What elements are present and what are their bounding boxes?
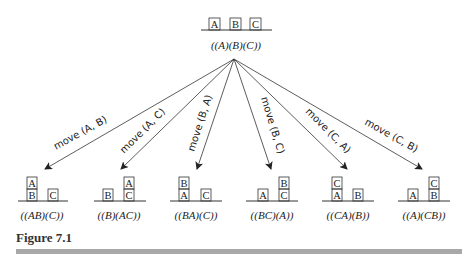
state-space-diagram: A B C ((A)(B)(C)) move (A, B) move (A, C… <box>0 0 472 263</box>
edge-move-c-b <box>234 59 422 169</box>
svg-text:A: A <box>28 178 36 189</box>
child-state-a-cb: A B C ((A)(CB)) <box>398 177 450 222</box>
child-state-ba-c: A B C ((BA)(C)) <box>170 177 222 222</box>
edge-move-a-c <box>121 59 234 169</box>
svg-text:C: C <box>125 190 132 201</box>
svg-text:B: B <box>28 190 35 201</box>
edge-label-move-a-b: move (A, B) <box>52 113 109 151</box>
block-c: C <box>250 18 261 30</box>
svg-text:A: A <box>259 190 267 201</box>
root-state: A B C ((A)(B)(C)) <box>201 18 272 52</box>
figure-caption: Figure 7.1 <box>16 230 72 246</box>
caption-rule <box>16 249 462 254</box>
child-state-label: ((AB)(C)) <box>21 209 64 222</box>
child-state-label: ((BC)(A)) <box>251 209 294 222</box>
block-a: A <box>209 18 220 30</box>
svg-text:B: B <box>354 190 361 201</box>
svg-text:C: C <box>280 190 287 201</box>
edge-move-c-a <box>234 59 347 169</box>
svg-text:B: B <box>280 178 287 189</box>
root-state-label: ((A)(B)(C)) <box>211 39 261 52</box>
block-b: B <box>230 18 241 30</box>
svg-text:A: A <box>211 19 219 30</box>
child-state-label: ((A)(CB)) <box>403 209 446 222</box>
child-state-label: ((CA)(B)) <box>327 209 370 222</box>
svg-text:A: A <box>180 190 188 201</box>
child-state-b-ac: B C A ((B)(AC)) <box>94 177 146 222</box>
edge-label-move-c-b: move (C, B) <box>363 116 420 154</box>
child-state-bc-a: A C B ((BC)(A)) <box>246 177 298 222</box>
svg-text:A: A <box>333 190 341 201</box>
svg-text:B: B <box>430 190 437 201</box>
child-state-label: ((B)(AC)) <box>98 209 141 222</box>
child-state-label: ((BA)(C)) <box>175 209 218 222</box>
svg-text:C: C <box>333 178 340 189</box>
svg-text:B: B <box>180 178 187 189</box>
svg-text:A: A <box>125 178 133 189</box>
svg-text:B: B <box>232 19 239 30</box>
svg-text:B: B <box>104 190 111 201</box>
svg-text:C: C <box>430 178 437 189</box>
svg-text:C: C <box>49 190 56 201</box>
svg-text:A: A <box>409 190 417 201</box>
edge-label-move-c-a: move (C, A) <box>304 106 354 156</box>
child-state-ca-b: A C B ((CA)(B)) <box>322 177 374 222</box>
child-state-ab-c: B A C ((AB)(C)) <box>18 177 68 222</box>
svg-text:C: C <box>252 19 259 30</box>
svg-text:C: C <box>202 190 209 201</box>
